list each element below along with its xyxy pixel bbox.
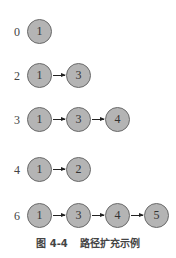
row-label: 2 xyxy=(14,69,20,84)
node-circle: 4 xyxy=(105,107,130,132)
row-label: 0 xyxy=(14,25,20,40)
node-circle: 1 xyxy=(27,203,52,228)
arrow-icon xyxy=(92,119,104,120)
arrow-icon xyxy=(53,215,65,216)
path-row-4: 4 1 2 xyxy=(0,157,176,185)
node-circle: 4 xyxy=(105,203,130,228)
figure-number: 图 4-4 xyxy=(36,238,68,249)
figure-caption: 图 4-4路径扩充示例 xyxy=(0,235,176,250)
node-circle: 1 xyxy=(27,107,52,132)
path-row-0: 0 1 xyxy=(0,19,176,47)
path-row-2: 2 1 3 xyxy=(0,63,176,91)
figure-title: 路径扩充示例 xyxy=(80,238,140,249)
row-label: 4 xyxy=(14,163,20,178)
path-row-6: 6 1 3 4 5 xyxy=(0,203,176,231)
node-circle: 1 xyxy=(27,63,52,88)
arrow-icon xyxy=(92,215,104,216)
arrow-icon xyxy=(131,215,143,216)
node-circle: 3 xyxy=(66,107,91,132)
node-circle: 1 xyxy=(27,157,52,182)
row-label: 6 xyxy=(14,209,20,224)
node-circle: 3 xyxy=(66,203,91,228)
arrow-icon xyxy=(53,119,65,120)
node-circle: 2 xyxy=(66,157,91,182)
row-label: 3 xyxy=(14,113,20,128)
arrow-icon xyxy=(53,75,65,76)
path-row-3: 3 1 3 4 xyxy=(0,107,176,135)
arrow-icon xyxy=(53,169,65,170)
node-circle: 3 xyxy=(66,63,91,88)
node-circle: 5 xyxy=(144,203,169,228)
node-circle: 1 xyxy=(27,19,52,44)
